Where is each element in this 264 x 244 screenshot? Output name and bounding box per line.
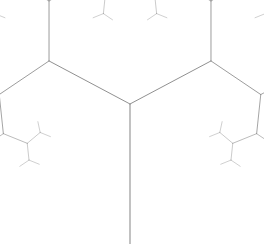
fractal-tree-canvas [0,0,264,244]
figure-background [0,0,264,244]
figure-root [0,0,264,244]
